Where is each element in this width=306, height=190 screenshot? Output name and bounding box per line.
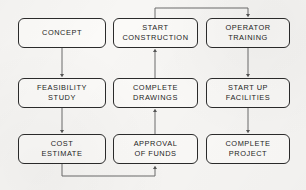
node-complete-drawings[interactable]: COMPLETE DRAWINGS <box>113 78 198 108</box>
node-feasibility-study-label: FEASIBILITY STUDY <box>37 83 87 102</box>
node-operator-training[interactable]: OPERATOR TRAINING <box>206 18 290 48</box>
node-concept[interactable]: CONCEPT <box>18 18 106 48</box>
node-operator-training-label: OPERATOR TRAINING <box>225 23 270 42</box>
node-concept-label: CONCEPT <box>42 28 82 38</box>
node-complete-project-label: COMPLETE PROJECT <box>225 139 270 158</box>
flowchart-canvas: CONCEPT START CONSTRUCTION OPERATOR TRAI… <box>0 0 306 190</box>
node-feasibility-study[interactable]: FEASIBILITY STUDY <box>18 78 106 108</box>
node-cost-estimate[interactable]: COST ESTIMATE <box>18 134 106 164</box>
node-start-up-facilities[interactable]: START UP FACILITIES <box>206 78 290 108</box>
node-start-construction[interactable]: START CONSTRUCTION <box>113 18 198 48</box>
node-start-up-facilities-label: START UP FACILITIES <box>226 83 271 102</box>
node-approval-of-funds-label: APPROVAL OF FUNDS <box>134 139 178 158</box>
node-cost-estimate-label: COST ESTIMATE <box>42 139 83 158</box>
connector-cost-to-approval <box>62 164 155 176</box>
node-approval-of-funds[interactable]: APPROVAL OF FUNDS <box>113 134 198 164</box>
connector-construction-to-operator <box>155 8 248 18</box>
node-complete-project[interactable]: COMPLETE PROJECT <box>206 134 290 164</box>
node-start-construction-label: START CONSTRUCTION <box>122 23 188 42</box>
node-complete-drawings-label: COMPLETE DRAWINGS <box>133 83 178 102</box>
